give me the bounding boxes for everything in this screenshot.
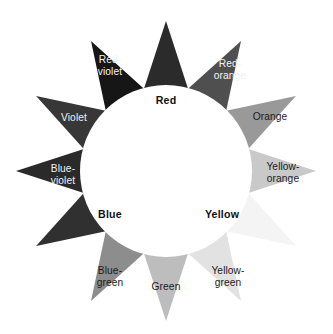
label-blue: Blue (98, 208, 122, 220)
label-red: Red (156, 94, 177, 106)
label-yellow-orange: Yellow-orange (266, 161, 299, 184)
label-violet: Violet (61, 112, 87, 123)
color-wheel-svg: RedRed-orangeOrangeYellow-orangeYellowYe… (0, 0, 333, 334)
label-green: Green (152, 281, 181, 292)
center-hub (80, 85, 252, 257)
label-yellow-green: Yellow-green (211, 265, 244, 288)
color-wheel-figure: RedRed-orangeOrangeYellow-orangeYellowYe… (0, 0, 333, 334)
label-red-violet: Red-violet (98, 54, 122, 77)
label-yellow: Yellow (205, 208, 240, 220)
label-blue-violet: Blue-violet (51, 163, 75, 186)
label-orange: Orange (253, 111, 288, 122)
label-blue-green: Blue-green (97, 265, 124, 288)
